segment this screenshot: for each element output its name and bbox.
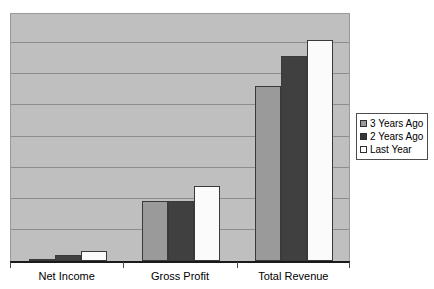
bar-group <box>124 14 237 261</box>
bar <box>168 201 194 261</box>
legend-item-label: 2 Years Ago <box>370 131 423 143</box>
bar <box>307 40 333 261</box>
x-axis-labels: Net IncomeGross ProfitTotal Revenue <box>10 269 350 285</box>
x-axis-tick <box>123 262 124 268</box>
x-axis-label: Total Revenue <box>237 269 350 283</box>
bar <box>281 56 307 261</box>
legend-item[interactable]: Last Year <box>360 143 423 156</box>
bar <box>142 201 168 261</box>
bar-group <box>238 14 351 261</box>
plot-area <box>10 13 350 262</box>
x-axis-ticks <box>10 262 350 269</box>
legend-item-label: Last Year <box>370 144 412 156</box>
x-axis-tick <box>10 262 11 268</box>
legend-swatch-icon <box>360 146 367 153</box>
legend-swatch-icon <box>360 133 367 140</box>
bars-layer <box>11 14 349 261</box>
bar-group <box>11 14 124 261</box>
bar <box>194 186 220 261</box>
x-axis-tick <box>237 262 238 268</box>
x-axis-tick <box>349 262 350 268</box>
x-axis-label: Net Income <box>10 269 123 283</box>
bar <box>81 251 107 261</box>
legend-item[interactable]: 2 Years Ago <box>360 130 423 143</box>
legend-item[interactable]: 3 Years Ago <box>360 117 423 130</box>
bar-chart: Net IncomeGross ProfitTotal Revenue 3 Ye… <box>0 0 434 289</box>
legend-swatch-icon <box>360 120 367 127</box>
bar <box>255 86 281 261</box>
legend-item-label: 3 Years Ago <box>370 118 423 130</box>
chart-legend: 3 Years Ago2 Years AgoLast Year <box>356 113 428 160</box>
x-axis-label: Gross Profit <box>123 269 236 283</box>
